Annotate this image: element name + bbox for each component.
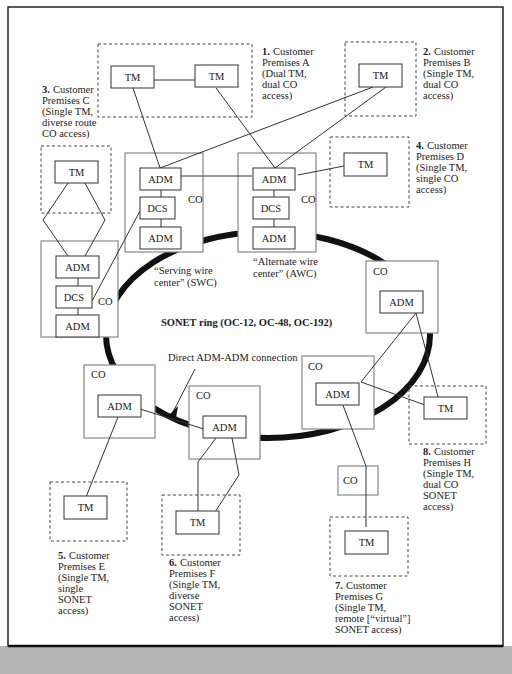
svg-text:DCS: DCS: [147, 203, 168, 214]
node-tm-g: TM: [345, 531, 388, 554]
svg-text:ADM: ADM: [107, 401, 132, 412]
node-adm-awc-top: ADM: [253, 168, 295, 190]
svg-text:ADM: ADM: [262, 174, 287, 185]
co-bottom-mid-label: CO: [196, 390, 211, 401]
node-adm-bottom-mid: ADM: [203, 416, 246, 438]
node-adm-right-lower: ADM: [316, 383, 359, 405]
node-adm-right-upper: ADM: [380, 291, 423, 313]
node-adm-bottom-left: ADM: [98, 395, 141, 417]
svg-text:TM: TM: [373, 70, 389, 81]
co-remote-label: CO: [343, 475, 358, 486]
node-tm-d: TM: [344, 153, 387, 176]
node-adm-swc-top: ADM: [140, 168, 181, 190]
node-tm-e: TM: [64, 496, 107, 519]
svg-text:TM: TM: [358, 159, 374, 170]
co-bottom-left-label: CO: [91, 369, 106, 380]
node-dcs-awc: DCS: [253, 197, 289, 219]
swc-label: “Serving wire center” (SWC): [154, 265, 217, 289]
svg-text:ADM: ADM: [148, 233, 173, 244]
node-adm-awc-bottom: ADM: [253, 227, 295, 249]
node-tm-c: TM: [55, 161, 98, 183]
svg-text:ADM: ADM: [65, 321, 90, 332]
svg-text:TM: TM: [190, 517, 206, 528]
svg-text:TM: TM: [78, 502, 94, 513]
co-right-upper-label: CO: [373, 266, 388, 277]
svg-text:ADM: ADM: [65, 262, 90, 273]
svg-text:TM: TM: [209, 71, 225, 82]
sonet-ring-diagram: TM TM TM TM TM ADM DCS ADM CO ADM DCS AD: [0, 0, 512, 674]
co-swc-label: CO: [188, 194, 203, 205]
svg-text:TM: TM: [125, 72, 141, 83]
co-left-label: CO: [98, 296, 113, 307]
svg-text:ADM: ADM: [262, 233, 287, 244]
svg-text:ADM: ADM: [389, 297, 414, 308]
node-tm-h: TM: [424, 397, 467, 419]
svg-text:TM: TM: [69, 167, 85, 178]
node-tm-a1: TM: [111, 66, 154, 88]
node-dcs-swc: DCS: [140, 197, 175, 219]
footer-band: [0, 646, 512, 674]
node-tm-f: TM: [176, 511, 219, 534]
svg-text:ADM: ADM: [325, 389, 350, 400]
svg-text:ADM: ADM: [148, 174, 173, 185]
awc-label: “Alternate wire center” (AWC): [253, 256, 321, 280]
node-dcs-left: DCS: [56, 286, 92, 308]
svg-text:DCS: DCS: [261, 203, 282, 214]
svg-text:DCS: DCS: [64, 292, 85, 303]
direct-connection-label: Direct ADM-ADM connection: [168, 352, 298, 363]
ring-title: SONET ring (OC-12, OC-48, OC-192): [161, 317, 333, 329]
svg-text:TM: TM: [438, 403, 454, 414]
co-awc-label: CO: [301, 194, 316, 205]
node-adm-left-bottom: ADM: [56, 315, 99, 337]
svg-text:TM: TM: [359, 537, 375, 548]
co-right-lower-label: CO: [308, 361, 323, 372]
node-adm-left-top: ADM: [56, 256, 99, 278]
svg-text:ADM: ADM: [212, 422, 237, 433]
node-tm-b: TM: [359, 64, 402, 87]
node-tm-a2: TM: [195, 65, 238, 87]
node-adm-swc-bottom: ADM: [140, 227, 181, 249]
